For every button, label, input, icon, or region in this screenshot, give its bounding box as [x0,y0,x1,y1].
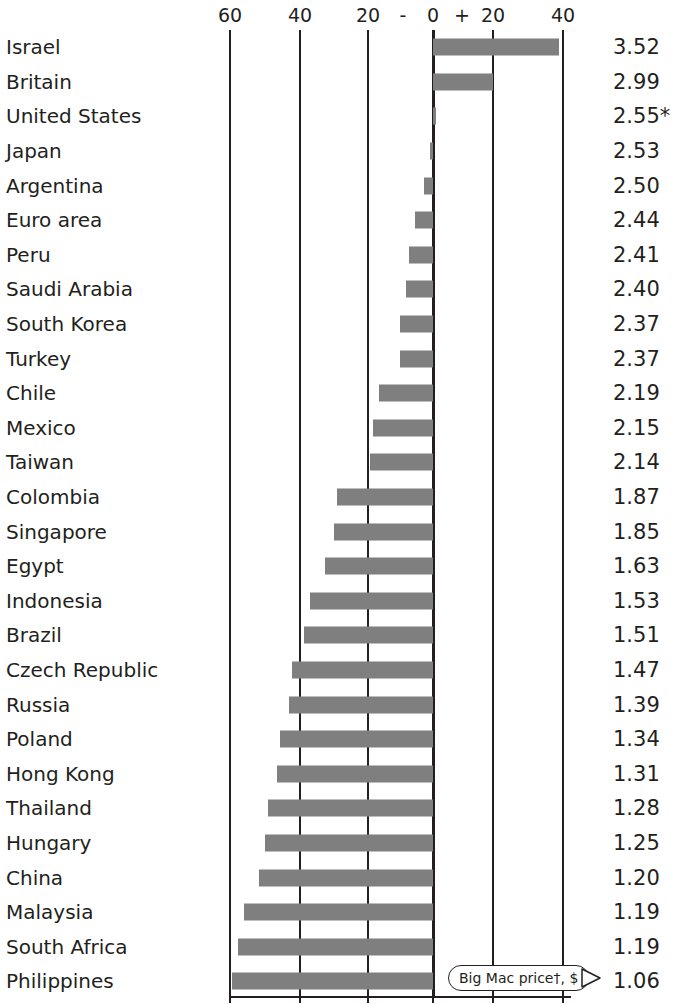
triangle-right-icon [580,965,602,991]
row-country-label: Mexico [6,417,76,439]
row-price-value: 2.53 [613,140,660,162]
row-bar [430,143,433,160]
row-country-label: United States [6,105,141,127]
row-bar [373,419,433,436]
chart-row: Poland1.34 [0,722,689,757]
row-country-label: Colombia [6,486,100,508]
axis-tick-label: 40 [551,4,575,26]
row-country-label: Euro area [6,209,102,231]
axis-tick-label: 20 [481,4,505,26]
row-price-value: 1.20 [613,867,660,889]
row-bar [337,489,433,506]
big-mac-index-chart: 60402002040-+ Israel3.52Britain2.99Unite… [0,0,689,1004]
baseline-tick [367,996,369,1003]
row-price-value: 2.19 [613,382,660,404]
row-bar [277,765,433,782]
row-price-value: 1.31 [613,763,660,785]
chart-row: Colombia1.87 [0,480,689,515]
row-country-label: Poland [6,728,73,750]
row-country-label: China [6,867,63,889]
row-price-value: 2.55* [613,105,670,127]
baseline-axis [230,996,571,998]
row-bar [409,246,433,263]
chart-row: United States2.55* [0,99,689,134]
chart-row: Brazil1.51 [0,618,689,653]
row-price-value: 2.99 [613,71,660,93]
chart-row: Indonesia1.53 [0,584,689,619]
baseline-tick [229,996,231,1003]
chart-row: Malaysia1.19 [0,895,689,930]
row-bar [292,661,433,678]
axis-header: 60402002040-+ [0,0,689,30]
row-country-label: Japan [6,140,62,162]
row-price-value: 2.50 [613,175,660,197]
row-country-label: Saudi Arabia [6,278,133,300]
row-bar [334,523,433,540]
chart-row: Israel3.52 [0,30,689,65]
chart-row: Japan2.53 [0,134,689,169]
row-bar [370,454,433,471]
chart-row: Singapore1.85 [0,514,689,549]
row-bar [289,696,433,713]
row-bar [424,177,433,194]
row-bar [433,39,559,56]
row-price-value: 1.19 [613,936,660,958]
chart-row: Thailand1.28 [0,791,689,826]
chart-row: Britain2.99 [0,65,689,100]
row-price-value: 1.47 [613,659,660,681]
row-price-value: 1.34 [613,728,660,750]
row-country-label: Hungary [6,832,91,854]
row-bar [433,73,493,90]
chart-row: Egypt1.63 [0,549,689,584]
chart-row: Mexico2.15 [0,411,689,446]
row-country-label: Peru [6,244,51,266]
row-country-label: Britain [6,71,72,93]
row-bar [268,800,433,817]
chart-row: Turkey2.37 [0,341,689,376]
row-bar [244,904,433,921]
row-price-value: 2.37 [613,313,660,335]
row-price-value: 1.51 [613,624,660,646]
row-country-label: Czech Republic [6,659,158,681]
axis-tick-label: 20 [356,4,380,26]
row-price-value: 2.14 [613,451,660,473]
chart-row: Argentina2.50 [0,168,689,203]
row-bar [304,627,433,644]
chart-row: Saudi Arabia2.40 [0,272,689,307]
row-price-value: 1.53 [613,590,660,612]
chart-row: Hong Kong1.31 [0,756,689,791]
row-price-value: 2.41 [613,244,660,266]
chart-row: Czech Republic1.47 [0,653,689,688]
chart-row: Hungary1.25 [0,826,689,861]
row-bar [265,834,433,851]
row-country-label: Philippines [6,970,114,992]
row-country-label: Malaysia [6,901,93,923]
row-bar [415,212,433,229]
axis-sign-label: + [454,4,470,26]
axis-tick-label: 0 [427,4,439,26]
row-country-label: South Korea [6,313,127,335]
row-country-label: Israel [6,36,61,58]
chart-row: Euro area2.44 [0,203,689,238]
row-country-label: Russia [6,694,70,716]
row-bar [238,938,433,955]
row-country-label: Brazil [6,624,62,646]
row-price-value: 3.52 [613,36,660,58]
row-country-label: Singapore [6,521,107,543]
row-price-value: 2.37 [613,348,660,370]
row-country-label: South Africa [6,936,128,958]
chart-rows: Israel3.52Britain2.99United States2.55*J… [0,30,689,999]
row-country-label: Argentina [6,175,104,197]
chart-row: South Africa1.19 [0,929,689,964]
chart-row: Chile2.19 [0,376,689,411]
row-bar [400,350,433,367]
row-price-value: 1.28 [613,797,660,819]
row-price-value: 1.19 [613,901,660,923]
chart-row: Taiwan2.14 [0,445,689,480]
row-bar [379,385,433,402]
callout-label: Big Mac price†, $ [459,970,578,986]
row-country-label: Indonesia [6,590,103,612]
chart-row: South Korea2.37 [0,307,689,342]
row-price-value: 1.85 [613,521,660,543]
axis-sign-label: - [400,4,407,26]
